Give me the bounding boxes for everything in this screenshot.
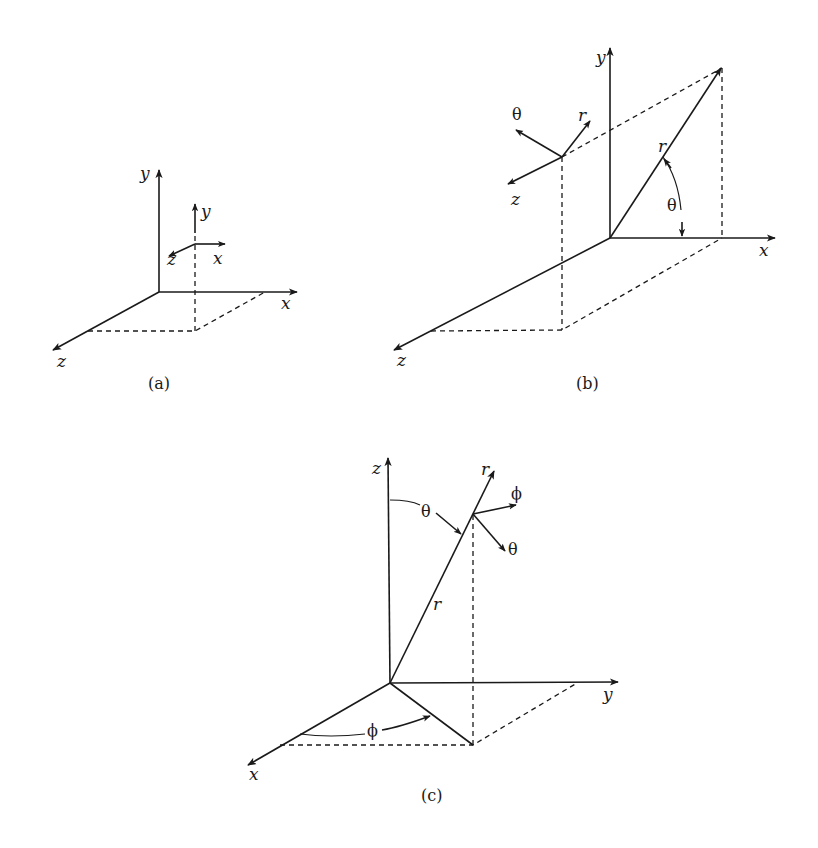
y-axis-label: y bbox=[602, 684, 613, 704]
theta-arc-arrow-top-icon bbox=[664, 159, 671, 168]
theta-angle-label: θ bbox=[667, 196, 677, 215]
phi-arc-arrow-icon bbox=[382, 716, 430, 730]
panel-c-caption: (c) bbox=[421, 786, 442, 805]
local-phi-arrow-icon bbox=[473, 505, 516, 514]
panel-c-spherical: z y x r r θ ϕ ϕ θ (c) bbox=[248, 458, 618, 805]
local-z-label: z bbox=[510, 189, 521, 209]
x-axis-label: x bbox=[281, 293, 291, 313]
y-axis-label: y bbox=[139, 163, 150, 183]
z-axis-arrow-icon bbox=[53, 292, 159, 350]
projection-dashed-lines bbox=[431, 238, 722, 331]
local-z-arrow-icon bbox=[508, 157, 562, 184]
phi-angle-arc bbox=[300, 734, 365, 736]
panel-a-cartesian: y x z y x z (a) bbox=[53, 163, 297, 393]
panel-a-caption: (a) bbox=[148, 374, 170, 393]
r-vector-label: r bbox=[658, 136, 667, 156]
local-theta-arrow-icon bbox=[473, 514, 505, 551]
z-axis-label: z bbox=[371, 458, 382, 478]
local-theta-arrow-icon bbox=[516, 130, 562, 157]
z-axis-arrow-icon bbox=[388, 458, 390, 683]
r-vector-label: r bbox=[433, 594, 442, 614]
x-axis-label: x bbox=[249, 764, 259, 784]
local-theta-label: θ bbox=[512, 105, 522, 124]
z-axis-arrow-icon bbox=[394, 238, 610, 350]
local-theta-label: θ bbox=[508, 540, 518, 559]
x-axis-label: x bbox=[759, 240, 769, 260]
local-y-label: y bbox=[200, 201, 211, 221]
theta-angle-label: θ bbox=[421, 502, 431, 521]
coordinate-systems-figure: y x z y x z (a) y x z r θ θ r z (b) bbox=[0, 0, 818, 848]
local-x-label: x bbox=[213, 248, 223, 268]
local-z-label: z bbox=[166, 249, 177, 269]
y-axis-label: y bbox=[595, 47, 606, 67]
z-axis-label: z bbox=[396, 350, 407, 370]
theta-angle-arc bbox=[390, 500, 420, 505]
panel-b-cylindrical: y x z r θ θ r z (b) bbox=[394, 47, 775, 393]
projection-dashed-lines bbox=[88, 292, 265, 331]
projection-line bbox=[390, 683, 473, 745]
phi-angle-label: ϕ bbox=[367, 721, 378, 740]
local-r-arrow-icon bbox=[562, 121, 590, 157]
r-vector-arrow-icon bbox=[390, 471, 494, 683]
y-axis-arrow-icon bbox=[390, 682, 618, 683]
local-r-label: r bbox=[578, 105, 587, 125]
local-phi-label: ϕ bbox=[511, 484, 522, 503]
theta-arc-arrow-icon bbox=[436, 513, 461, 534]
r-axis-label: r bbox=[481, 459, 490, 479]
panel-b-caption: (b) bbox=[576, 374, 599, 393]
z-axis-label: z bbox=[56, 351, 67, 371]
